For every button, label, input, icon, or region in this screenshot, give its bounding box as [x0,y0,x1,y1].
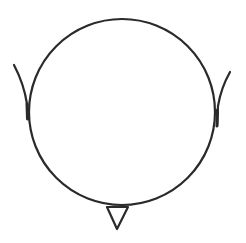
head-circle [29,19,215,205]
head-outline-svg [0,0,246,243]
right-ear-joint [217,110,218,126]
head-diagram [0,0,246,243]
left-ear-joint [27,104,28,119]
nose-triangle-icon [107,207,128,229]
right-ear-icon [217,72,230,126]
